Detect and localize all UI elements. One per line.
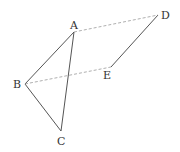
segment-DE	[111, 15, 158, 67]
segment-BC	[25, 84, 61, 131]
label-A: A	[69, 19, 79, 32]
label-E: E	[103, 69, 111, 82]
label-D: D	[161, 9, 170, 22]
geometry-figure: A B C D E	[0, 0, 180, 152]
solid-segments	[25, 15, 158, 131]
point-labels: A B C D E	[13, 9, 170, 148]
dashed-segments	[25, 15, 158, 84]
label-B: B	[13, 78, 21, 91]
label-C: C	[57, 135, 65, 148]
segment-AC	[61, 32, 74, 131]
segment-AB	[25, 32, 74, 84]
